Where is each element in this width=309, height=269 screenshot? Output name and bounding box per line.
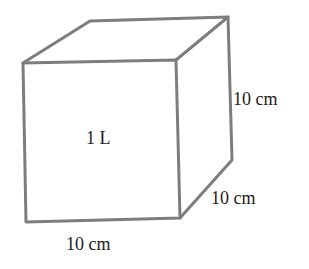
cube-top-face [23, 17, 228, 63]
volume-label: 1 L [86, 129, 111, 147]
height-label: 10 cm [233, 90, 278, 108]
cube-drawing [0, 0, 309, 269]
depth-label: 10 cm [211, 189, 256, 207]
width-label: 10 cm [66, 235, 111, 253]
